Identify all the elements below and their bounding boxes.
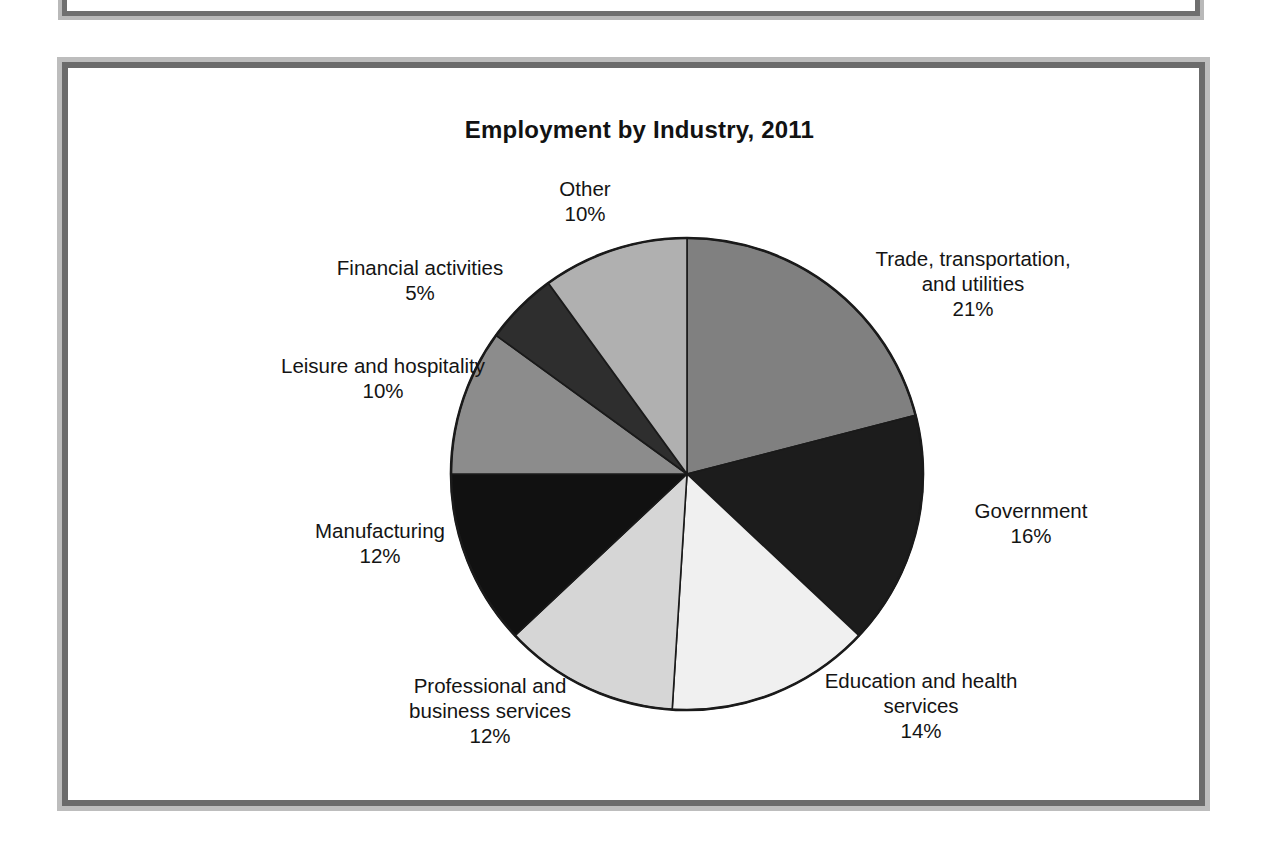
- pie-label-financial-activities: Financial activities 5%: [280, 255, 560, 305]
- pie-label-trade-transportation-utilities: Trade, transportation, and utilities 21%: [838, 246, 1108, 321]
- page-frame-main: Employment by Industry, 2011 Other 10% T…: [62, 62, 1205, 806]
- pie-label-leisure-and-hospitality: Leisure and hospitality 10%: [228, 353, 538, 403]
- pie-chart-figure: Employment by Industry, 2011 Other 10% T…: [68, 68, 1211, 812]
- pie-label-manufacturing: Manufacturing 12%: [250, 518, 510, 568]
- pie-label-education-health-services: Education and health services 14%: [786, 668, 1056, 743]
- chart-title: Employment by Industry, 2011: [68, 116, 1211, 144]
- pie-label-professional-business-services: Professional and business services 12%: [360, 673, 620, 748]
- pie-label-other: Other 10%: [500, 176, 670, 226]
- pie-label-government: Government 16%: [906, 498, 1156, 548]
- page-frame-top-partial: [62, 0, 1200, 16]
